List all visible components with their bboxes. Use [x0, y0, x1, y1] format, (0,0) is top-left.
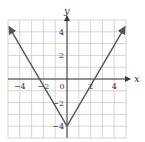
graph-line: [67, 27, 125, 126]
graph-line: [9, 27, 67, 126]
y-tick-label: −4: [52, 122, 64, 131]
x-tick-label: 0: [59, 82, 64, 91]
y-tick-label: 4: [59, 28, 64, 37]
chart-plot: −4−202442−2−4 x y: [0, 0, 145, 142]
x-tick-label: 4: [112, 82, 117, 91]
y-tick-label: 2: [59, 51, 64, 60]
x-tick-label: −4: [14, 82, 26, 91]
y-axis-label: y: [63, 5, 70, 16]
x-axis-label: x: [134, 73, 140, 84]
